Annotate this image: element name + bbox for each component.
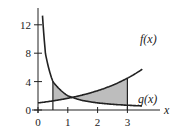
series-label-f: f(x) — [140, 32, 157, 46]
x-tick-label: 3 — [125, 116, 131, 128]
y-tick-label: 12 — [20, 19, 31, 31]
y-tick-label: 0 — [26, 104, 32, 116]
x-tick-label: 0 — [35, 116, 41, 128]
y-tick-label: 4 — [26, 76, 32, 88]
chart: 012304812 f(x) g(x) x — [0, 0, 177, 133]
x-tick-label: 2 — [95, 116, 101, 128]
axis-layer: 012304812 — [20, 8, 160, 128]
x-axis-label: x — [163, 103, 170, 117]
series-label-g: g(x) — [138, 92, 157, 106]
y-tick-label: 8 — [26, 47, 32, 59]
x-tick-label: 1 — [65, 116, 71, 128]
